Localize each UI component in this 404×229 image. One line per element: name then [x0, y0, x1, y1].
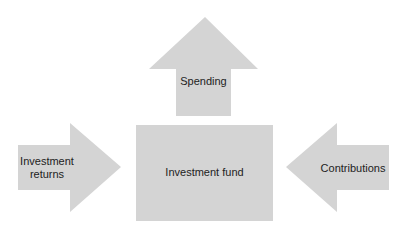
- investment-returns-line1: Investment: [12, 155, 82, 168]
- contributions-label: Contributions: [312, 162, 394, 175]
- spending-label: Spending: [176, 75, 231, 88]
- investment-returns-label: Investment returns: [12, 155, 82, 181]
- spending-arrow: [149, 17, 258, 116]
- investment-returns-line2: returns: [12, 168, 82, 181]
- diagram-canvas: [0, 0, 404, 229]
- investment-fund-label: Investment fund: [136, 166, 273, 179]
